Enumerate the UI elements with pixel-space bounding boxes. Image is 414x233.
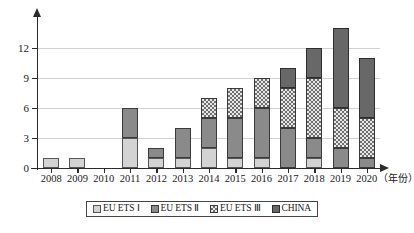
legend-swatch-icon (272, 205, 280, 213)
legend-item-eu-ets-ⅰ[interactable]: EU ETS Ⅰ (93, 204, 140, 214)
chart-container: 036912 200820092010201120122013201420152… (0, 0, 414, 233)
bar-segment-eu-ets-ⅲ (359, 118, 375, 158)
bar-2009[interactable] (69, 158, 85, 168)
bar-2017[interactable] (280, 68, 296, 168)
bar-segment-eu-ets-ⅰ (254, 158, 270, 168)
y-axis-tick-label: 0 (24, 163, 30, 174)
x-axis-label-2010: 2010 (93, 174, 114, 185)
legend-label: EU ETS Ⅱ (161, 204, 200, 214)
x-axis-label-2008: 2008 (41, 174, 62, 185)
bar-2008[interactable] (43, 158, 59, 168)
bar-2012[interactable] (148, 148, 164, 168)
legend-item-eu-ets-ⅱ[interactable]: EU ETS Ⅱ (151, 204, 200, 214)
x-axis-arrow-icon (380, 164, 389, 172)
bar-segment-china (280, 68, 296, 88)
bar-segment-eu-ets-ⅲ (333, 108, 349, 148)
bar-2018[interactable] (306, 48, 322, 168)
x-axis-label-2013: 2013 (172, 174, 193, 185)
y-axis-tick-label: 9 (24, 73, 30, 84)
bar-segment-eu-ets-ⅱ (122, 108, 138, 138)
y-axis-tick (32, 138, 38, 139)
legend-swatch-icon (151, 205, 159, 213)
bar-2016[interactable] (254, 78, 270, 168)
bar-segment-eu-ets-ⅰ (122, 138, 138, 168)
x-axis-label-2019: 2019 (330, 174, 351, 185)
x-axis-label-2009: 2009 (67, 174, 88, 185)
bar-segment-eu-ets-ⅱ (306, 138, 322, 158)
bar-segment-eu-ets-ⅱ (359, 158, 375, 168)
gridline (38, 48, 380, 49)
bar-2015[interactable] (227, 88, 243, 168)
bar-segment-eu-ets-ⅲ (280, 88, 296, 128)
y-axis-tick-label: 6 (24, 103, 30, 114)
bar-segment-eu-ets-ⅰ (306, 158, 322, 168)
bar-segment-eu-ets-ⅱ (280, 128, 296, 168)
bar-segment-eu-ets-ⅰ (148, 158, 164, 168)
bar-segment-eu-ets-ⅱ (175, 128, 191, 158)
chart-legend: EU ETS ⅠEU ETS ⅡEU ETS ⅢCHINA (86, 201, 318, 217)
x-axis-label-2018: 2018 (304, 174, 325, 185)
y-axis-tick (32, 78, 38, 79)
legend-item-eu-ets-ⅲ[interactable]: EU ETS Ⅲ (210, 204, 261, 214)
bar-segment-eu-ets-ⅲ (201, 98, 217, 118)
bar-segment-china (359, 58, 375, 118)
x-axis-line (31, 168, 381, 169)
x-axis-title: （年份） (378, 174, 414, 184)
bar-segment-eu-ets-ⅰ (69, 158, 85, 168)
x-axis-label-2014: 2014 (199, 174, 220, 185)
bar-segment-eu-ets-ⅲ (227, 88, 243, 118)
y-axis-tick (32, 48, 38, 49)
bar-segment-eu-ets-ⅲ (254, 78, 270, 108)
y-axis-tick-label: 3 (24, 133, 30, 144)
y-axis-tick (32, 108, 38, 109)
bar-segment-china (333, 28, 349, 108)
bar-2019[interactable] (333, 28, 349, 168)
legend-label: CHINA (282, 204, 312, 214)
legend-label: EU ETS Ⅰ (103, 204, 140, 214)
bar-2013[interactable] (175, 128, 191, 168)
y-axis-arrow-icon (33, 8, 41, 17)
bar-segment-eu-ets-ⅲ (306, 78, 322, 138)
bar-segment-eu-ets-ⅰ (227, 158, 243, 168)
bar-segment-china (306, 48, 322, 78)
legend-swatch-icon (93, 205, 101, 213)
y-axis-tick (32, 168, 38, 169)
legend-item-china[interactable]: CHINA (272, 204, 312, 214)
bar-segment-eu-ets-ⅰ (175, 158, 191, 168)
bar-segment-eu-ets-ⅱ (254, 108, 270, 158)
bar-segment-eu-ets-ⅱ (333, 148, 349, 168)
bar-segment-eu-ets-ⅱ (148, 148, 164, 158)
legend-label: EU ETS Ⅲ (220, 204, 261, 214)
x-axis-label-2016: 2016 (251, 174, 272, 185)
plot-area: 036912 (38, 18, 380, 168)
bar-2011[interactable] (122, 108, 138, 168)
x-axis-label-2011: 2011 (120, 174, 141, 185)
bar-segment-eu-ets-ⅱ (201, 118, 217, 148)
x-axis-label-2017: 2017 (277, 174, 298, 185)
y-axis-tick-label: 12 (18, 43, 29, 54)
x-axis-label-2015: 2015 (225, 174, 246, 185)
x-axis-label-2012: 2012 (146, 174, 167, 185)
bar-2014[interactable] (201, 98, 217, 168)
x-axis-label-2020: 2020 (356, 174, 377, 185)
bar-segment-eu-ets-ⅰ (43, 158, 59, 168)
bar-2020[interactable] (359, 58, 375, 168)
gridline (38, 78, 380, 79)
bar-segment-eu-ets-ⅰ (201, 148, 217, 168)
bar-segment-eu-ets-ⅱ (227, 118, 243, 158)
legend-swatch-icon (210, 205, 218, 213)
